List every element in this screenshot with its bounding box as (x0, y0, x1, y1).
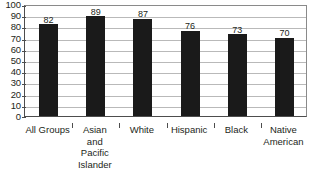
gridline (25, 73, 306, 74)
y-tick-mark (22, 84, 26, 85)
y-axis-labels: 100 90 80 70 60 50 40 30 20 10 0 (0, 0, 21, 123)
gridline (25, 107, 306, 108)
y-tick-mark (22, 73, 26, 74)
gridline (25, 51, 306, 52)
category-label-asian-pacific-islander: Asian and Pacific Islander (78, 124, 112, 170)
gridline (25, 62, 306, 63)
y-tick-label: 70 (0, 34, 21, 44)
y-tick-label: 20 (0, 90, 21, 100)
category-label-white: White (130, 124, 154, 136)
category-label-native-american: Native American (263, 124, 303, 147)
x-axis-category-labels: All Groups Asian and Pacific Islander Wh… (24, 124, 307, 173)
gridline (25, 28, 306, 29)
category-label-all-groups: All Groups (25, 124, 69, 136)
category-label-black: Black (225, 124, 248, 136)
y-tick-mark (22, 17, 26, 18)
bar-all-groups (39, 24, 58, 116)
y-tick-label: 60 (0, 45, 21, 55)
y-tick-label: 90 (0, 11, 21, 21)
y-tick-label: 100 (0, 0, 21, 10)
plot-area: 82 89 87 76 73 70 (24, 5, 307, 117)
y-tick-label: 50 (0, 56, 21, 66)
gridline (25, 17, 306, 18)
gridline (25, 96, 306, 97)
bar-hispanic (181, 31, 200, 116)
y-tick-label: 10 (0, 101, 21, 111)
bar-native-american (275, 38, 294, 116)
y-tick-label: 0 (0, 112, 21, 122)
bar-asian-pacific-islander (86, 16, 105, 116)
y-tick-mark (22, 40, 26, 41)
bar-value-label: 87 (138, 10, 148, 19)
bar-value-label: 82 (44, 16, 54, 25)
category-label-hispanic: Hispanic (171, 124, 207, 136)
y-tick-mark (22, 28, 26, 29)
y-tick-mark (22, 51, 26, 52)
y-tick-label: 30 (0, 79, 21, 89)
y-tick-label: 80 (0, 23, 21, 33)
bar-white (133, 19, 152, 116)
bar-black (228, 34, 247, 116)
bar-value-label: 89 (91, 8, 101, 17)
y-tick-mark (22, 96, 26, 97)
y-tick-mark (22, 62, 26, 63)
y-tick-mark (22, 117, 26, 118)
y-tick-label: 40 (0, 67, 21, 77)
gridline (25, 40, 306, 41)
gridline (25, 84, 306, 85)
bar-value-label: 76 (185, 22, 195, 31)
bar-chart: 100 90 80 70 60 50 40 30 20 10 0 (0, 0, 314, 173)
y-tick-mark (22, 107, 26, 108)
bar-value-label: 73 (232, 26, 242, 35)
y-tick-mark (22, 6, 26, 7)
bar-value-label: 70 (279, 29, 289, 38)
